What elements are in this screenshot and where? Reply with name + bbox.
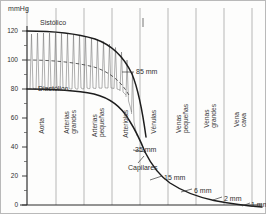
annotation-35mm: 35 mm — [135, 146, 156, 153]
annotation-1mm: 1 mm — [251, 201, 266, 208]
venous-pressure-curve — [145, 152, 262, 207]
y-tick-80: 80 — [2, 86, 18, 93]
blood-pressure-chart: mmHg 120 100 80 60 40 20 0 Sistólico Dia… — [0, 0, 266, 214]
y-tick-120: 120 — [2, 28, 18, 35]
leader-15mm — [150, 176, 162, 180]
segment-label-arteriolas: Arteriolas — [122, 110, 129, 138]
systolic-label: Sistólico — [40, 19, 66, 26]
annotation-capilares: Capilares — [128, 164, 158, 171]
annotation-85mm: 85 mm — [136, 68, 157, 75]
chart-canvas — [0, 0, 266, 214]
annotation-15mm: 15 mm — [164, 174, 185, 181]
segment-dividers — [27, 8, 252, 205]
unit-label: mmHg — [8, 5, 29, 12]
segment-label-venas-pequenas: Venas pequeñas — [175, 104, 190, 133]
figure-border — [1, 1, 266, 214]
y-tick-20: 20 — [2, 173, 18, 180]
y-tick-0: 0 — [2, 202, 18, 209]
leader-2mm — [213, 197, 222, 200]
y-tick-60: 60 — [2, 115, 18, 122]
segment-label-venas-grandes: Venas grandes — [203, 104, 218, 128]
y-tick-100: 100 — [2, 57, 18, 64]
segment-label-arterias-pequenas: Arterias pequeñas — [91, 108, 106, 137]
annotation-6mm: 6 mm — [194, 187, 212, 194]
segment-label-venulas: Vénulas — [150, 110, 157, 134]
diastolic-label: Diastólico — [38, 85, 68, 92]
segment-label-aorta: Aorta — [38, 118, 45, 134]
segment-label-vena-cava: Vena cava — [233, 112, 248, 127]
annotation-2mm: 2 mm — [224, 195, 242, 202]
segment-label-arterias-grandes: Arterias grandes — [63, 110, 78, 134]
y-tick-40: 40 — [2, 144, 18, 151]
leader-capilares — [138, 156, 144, 163]
y-major-ticks — [22, 31, 27, 205]
